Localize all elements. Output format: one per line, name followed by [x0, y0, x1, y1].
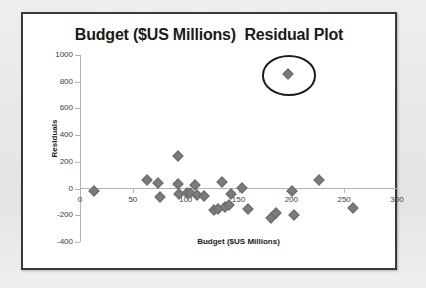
data-point — [266, 213, 277, 224]
data-point — [216, 176, 227, 187]
data-point — [155, 192, 166, 203]
data-point — [173, 151, 184, 162]
x-tick-label: 100 — [171, 195, 201, 204]
x-tick-label: 0 — [65, 195, 95, 204]
x-tick-label: 150 — [224, 195, 254, 204]
y-tick-mark — [75, 135, 80, 136]
y-tick-label: 1000 — [39, 50, 73, 59]
y-tick-label: -400 — [39, 237, 73, 246]
x-tick-mark — [186, 188, 187, 193]
data-point — [289, 210, 300, 221]
plot-area: 10008006004002000-200-400 05010015020025… — [23, 14, 395, 268]
y-tick-label: 0 — [39, 184, 73, 193]
chart-frame: Budget ($US Millions) Residual Plot 1000… — [21, 12, 397, 270]
data-points-layer — [23, 14, 395, 268]
data-point — [347, 203, 358, 214]
y-tick-mark — [75, 55, 80, 56]
x-tick-label: 300 — [382, 195, 412, 204]
x-tick-mark — [239, 188, 240, 193]
y-axis-line — [80, 55, 81, 242]
data-point — [282, 69, 293, 80]
x-tick-mark — [80, 188, 81, 193]
x-tick-mark — [291, 188, 292, 193]
x-tick-mark — [397, 188, 398, 193]
y-tick-mark — [75, 82, 80, 83]
x-tick-mark — [133, 188, 134, 193]
y-tick-mark — [75, 215, 80, 216]
data-point — [189, 179, 200, 190]
x-tick-mark — [344, 188, 345, 193]
data-point — [141, 175, 152, 186]
data-point — [213, 203, 224, 214]
x-tick-label: 50 — [118, 195, 148, 204]
data-point — [242, 203, 253, 214]
data-point — [313, 174, 324, 185]
outlier-circle-annotation — [262, 55, 317, 95]
y-tick-mark — [75, 162, 80, 163]
data-point — [208, 204, 219, 215]
x-tick-label: 200 — [276, 195, 306, 204]
y-axis-title: Residuals — [50, 99, 59, 179]
y-tick-label: 800 — [39, 77, 73, 86]
y-tick-mark — [75, 108, 80, 109]
y-tick-label: -200 — [39, 210, 73, 219]
data-point — [271, 207, 282, 218]
x-axis-title: Budget ($US Millions) — [80, 237, 397, 246]
x-tick-label: 250 — [329, 195, 359, 204]
